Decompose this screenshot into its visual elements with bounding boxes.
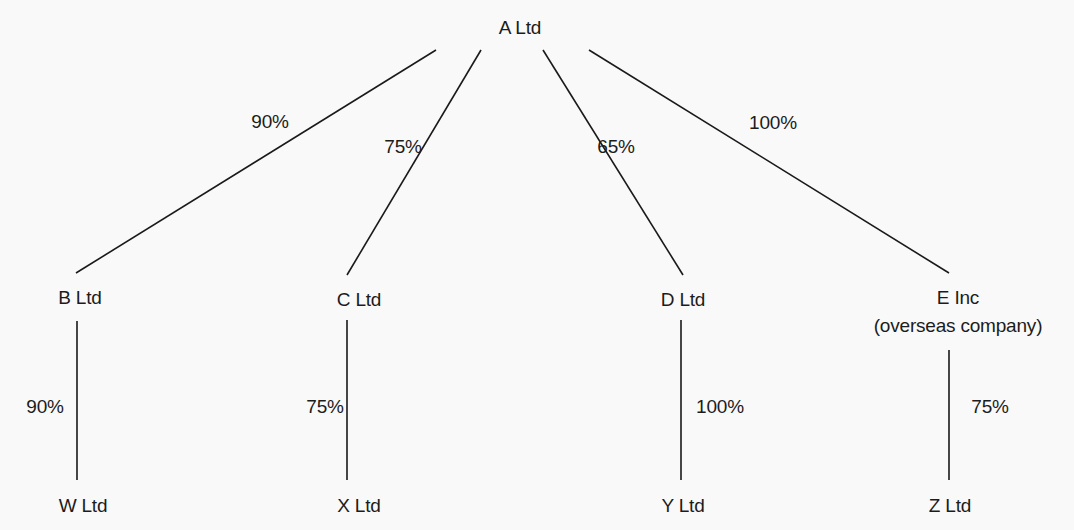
node-label: Z Ltd <box>929 495 971 516</box>
holding-label-d-y: 100% <box>696 396 744 418</box>
node-e-inc: E Inc (overseas company) <box>874 287 1043 337</box>
holding-label-b-w: 90% <box>26 396 63 418</box>
edge-a-b <box>76 50 436 273</box>
node-label: Y Ltd <box>661 495 704 516</box>
node-label: A Ltd <box>499 17 541 38</box>
node-d-ltd: D Ltd <box>661 289 705 311</box>
node-b-ltd: B Ltd <box>58 287 101 309</box>
holding-label-a-c: 75% <box>384 136 421 158</box>
node-label: C Ltd <box>337 289 381 310</box>
node-label: B Ltd <box>58 287 101 308</box>
node-sublabel: (overseas company) <box>874 315 1043 337</box>
group-structure-diagram: A Ltd B Ltd C Ltd D Ltd E Inc (overseas … <box>0 0 1074 530</box>
connector-lines <box>0 0 1074 530</box>
node-z-ltd: Z Ltd <box>929 495 971 517</box>
edge-a-d <box>543 50 683 275</box>
node-label: E Inc <box>874 287 1043 309</box>
node-label: W Ltd <box>59 495 108 516</box>
holding-label-a-b: 90% <box>251 111 288 133</box>
node-c-ltd: C Ltd <box>337 289 381 311</box>
holding-label-e-z: 75% <box>971 396 1008 418</box>
node-y-ltd: Y Ltd <box>661 495 704 517</box>
holding-label-c-x: 75% <box>306 396 343 418</box>
node-label: D Ltd <box>661 289 705 310</box>
node-a-ltd: A Ltd <box>499 17 541 39</box>
edge-a-e <box>589 50 949 273</box>
edge-a-c <box>347 50 481 275</box>
node-w-ltd: W Ltd <box>59 495 108 517</box>
holding-label-a-d: 65% <box>597 136 634 158</box>
holding-label-a-e: 100% <box>749 112 797 134</box>
node-label: X Ltd <box>337 495 380 516</box>
node-x-ltd: X Ltd <box>337 495 380 517</box>
